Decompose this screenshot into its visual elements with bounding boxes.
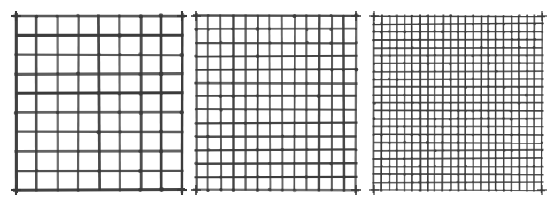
weld-node <box>381 94 383 96</box>
weld-node <box>411 70 413 72</box>
weld-node <box>510 118 513 121</box>
weld-node <box>427 62 430 65</box>
weld-node <box>318 135 320 137</box>
weld-node <box>318 41 320 43</box>
weld-node <box>231 135 234 138</box>
weld-node <box>488 78 490 80</box>
weld-node <box>280 176 283 179</box>
weld-node <box>442 174 444 176</box>
weld-node <box>510 102 512 104</box>
weld-node <box>465 142 467 144</box>
weld-node <box>293 135 297 139</box>
weld-node <box>35 15 39 19</box>
wire-horizontal <box>195 149 357 150</box>
weld-node <box>355 41 358 44</box>
weld-node <box>380 134 383 137</box>
weld-node <box>534 158 536 160</box>
weld-node <box>533 23 536 26</box>
weld-node <box>502 46 505 49</box>
weld-node <box>412 118 414 120</box>
weld-node <box>449 118 452 121</box>
wire-vertical <box>343 16 344 192</box>
weld-node <box>517 86 519 88</box>
weld-node <box>472 181 474 183</box>
weld-node <box>118 92 122 96</box>
weld-node <box>255 148 259 152</box>
weld-node <box>305 175 309 179</box>
weld-node <box>503 94 505 96</box>
weld-node <box>404 55 406 57</box>
weld-node <box>480 38 482 40</box>
weld-node <box>442 149 444 151</box>
weld-node <box>511 94 513 96</box>
weld-node <box>388 173 391 176</box>
weld-node <box>268 28 271 31</box>
weld-node <box>381 63 383 65</box>
weld-node <box>244 175 247 178</box>
weld-node <box>457 141 460 144</box>
weld-node <box>138 72 142 76</box>
weld-node <box>159 149 163 153</box>
weld-node <box>533 38 536 41</box>
weld-node <box>518 14 520 16</box>
weld-node <box>419 141 421 143</box>
weld-node <box>525 94 528 97</box>
weld-node <box>389 165 391 167</box>
weld-node <box>434 46 436 48</box>
weld-node <box>502 117 505 120</box>
weld-node <box>403 141 406 144</box>
weld-node <box>441 38 444 41</box>
weld-node <box>219 176 222 179</box>
weld-node <box>472 134 475 137</box>
weld-node <box>330 135 332 137</box>
weld-node <box>518 133 520 135</box>
weld-node <box>442 118 444 120</box>
weld-node <box>35 169 38 172</box>
weld-node <box>419 30 422 33</box>
weld-node <box>472 118 474 120</box>
wire-horizontal <box>373 158 543 159</box>
mesh-grid-panel-coarse <box>10 10 188 196</box>
weld-node <box>403 38 405 40</box>
weld-node <box>503 15 505 17</box>
weld-node <box>502 165 504 167</box>
weld-node <box>465 94 467 96</box>
weld-node <box>118 130 122 134</box>
weld-node <box>343 189 345 191</box>
weld-node <box>411 157 413 159</box>
weld-node <box>503 149 506 152</box>
vertical-wires <box>197 13 357 193</box>
weld-node <box>427 157 429 159</box>
weld-node <box>503 86 506 89</box>
weld-node <box>381 165 383 167</box>
weld-node <box>269 121 272 124</box>
weld-node <box>373 102 376 105</box>
weld-node <box>495 134 497 136</box>
weld-node <box>457 117 459 119</box>
weld-node <box>533 134 535 136</box>
weld-node <box>472 23 474 25</box>
weld-node <box>220 41 223 44</box>
weld-node <box>281 42 283 44</box>
weld-node <box>526 134 528 136</box>
weld-node <box>395 150 397 152</box>
weld-node <box>256 175 259 178</box>
weld-node <box>525 110 527 112</box>
weld-node <box>473 86 475 88</box>
weld-node <box>480 31 482 33</box>
weld-node <box>541 134 543 136</box>
weld-node <box>541 149 543 151</box>
weld-node <box>517 38 520 41</box>
weld-node <box>395 47 398 50</box>
weld-node <box>442 102 444 104</box>
weld-node <box>77 150 80 153</box>
weld-node <box>427 173 429 175</box>
weld-node <box>457 165 459 167</box>
weld-node <box>195 149 197 151</box>
weld-node <box>441 86 443 88</box>
weld-node <box>372 134 374 136</box>
weld-node <box>98 150 101 153</box>
weld-node <box>219 82 221 84</box>
weld-node <box>118 15 121 18</box>
weld-node <box>457 126 459 128</box>
